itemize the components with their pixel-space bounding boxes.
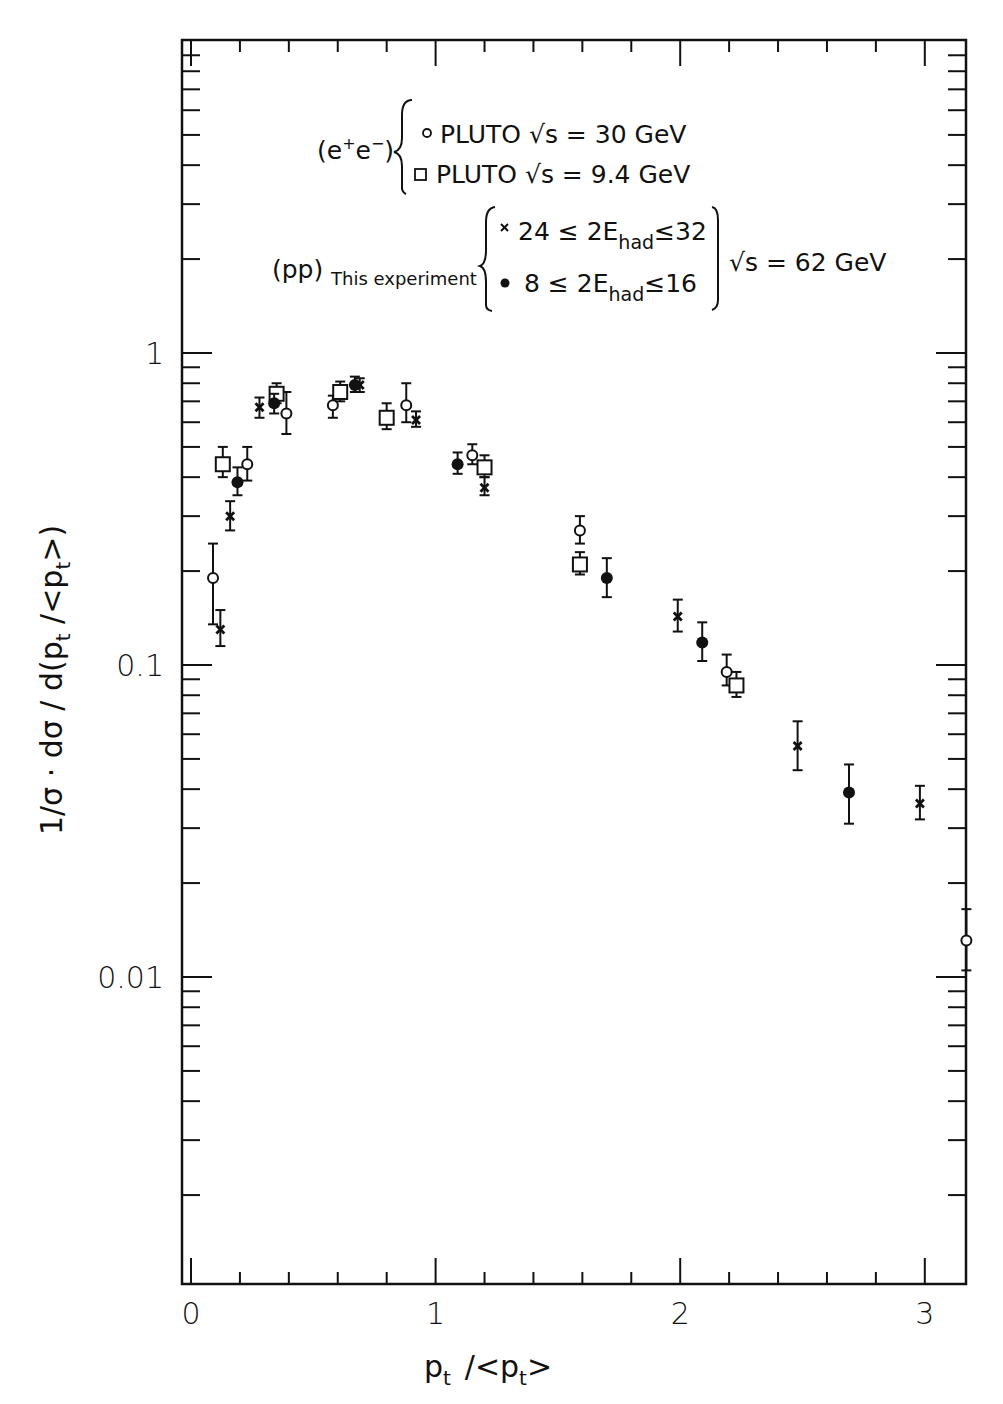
- data-point: [216, 447, 230, 477]
- data-point: [242, 447, 252, 481]
- data-point: [380, 403, 394, 429]
- data-point: [601, 558, 613, 597]
- data-point: [478, 455, 492, 477]
- open-square-marker-icon: [216, 457, 230, 471]
- series-filled-circle: [231, 377, 855, 824]
- chart-canvas: 01230.010.11 pt/<pt> 1/σ · dσ / d(pt /<p…: [0, 0, 1003, 1404]
- data-point: [573, 552, 587, 574]
- data-point: [729, 672, 743, 697]
- x-axis-title: pt/<pt>: [424, 1349, 552, 1390]
- data-point: [208, 544, 218, 625]
- filled-circle-marker-icon: [231, 476, 243, 488]
- open-circle-marker-icon: [281, 408, 291, 418]
- y-tick-label: 0.01: [97, 960, 164, 995]
- axis-tick-labels: 01230.010.11: [97, 336, 934, 1331]
- filled-circle-marker-icon: [452, 458, 464, 470]
- open-circle-marker-icon: [242, 459, 252, 469]
- data-points: [208, 377, 971, 971]
- open-circle-marker-icon: [961, 935, 971, 945]
- data-point: [793, 721, 803, 770]
- filled-circle-marker-icon: [268, 397, 280, 409]
- legend-entry-pluto-30: PLUTO √s = 30 GeV: [440, 120, 686, 149]
- data-point: [480, 477, 490, 495]
- legend-brace-pp-right: [712, 207, 718, 310]
- data-point: [333, 382, 347, 402]
- legend-pp-energy-note: √s = 62 GeV: [729, 248, 886, 277]
- open-square-marker-icon: [573, 557, 587, 571]
- x-tick-label: 1: [426, 1296, 445, 1331]
- legend-group-pp-sublabel: This experiment: [330, 268, 477, 289]
- open-circle-marker-icon: [722, 667, 732, 677]
- open-square-marker-icon: [478, 460, 492, 474]
- y-tick-label: 0.1: [116, 648, 164, 683]
- data-point: [843, 764, 855, 823]
- x-tick-label: 2: [671, 1296, 690, 1331]
- legend: (e+e−) PLUTO √s = 30 GeV PLUTO √s = 9.4 …: [272, 100, 886, 311]
- filled-circle-marker-icon: [696, 637, 708, 649]
- legend-entry-pluto-9-4: PLUTO √s = 9.4 GeV: [436, 160, 690, 189]
- x-tick-label: 0: [181, 1296, 200, 1331]
- x-tick-label: 3: [915, 1296, 934, 1331]
- data-point: [411, 411, 421, 426]
- series-cross: [215, 378, 925, 819]
- legend-brace-pp-left: [480, 207, 495, 311]
- legend-marker-open-square: [415, 169, 426, 180]
- series-open-circle: [208, 383, 971, 970]
- data-point: [961, 909, 971, 970]
- series-open-square: [216, 382, 744, 697]
- open-square-marker-icon: [729, 678, 743, 692]
- filled-circle-marker-icon: [843, 787, 855, 799]
- data-point: [225, 501, 235, 530]
- open-circle-marker-icon: [575, 525, 585, 535]
- legend-marker-open-circle: [423, 129, 431, 137]
- y-axis-title: 1/σ · dσ / d(pt /<pt>): [34, 525, 75, 835]
- legend-marker-cross: [501, 224, 508, 231]
- data-point: [915, 786, 925, 820]
- legend-group-ee-label: (e+e−): [317, 134, 394, 165]
- data-point: [673, 600, 683, 632]
- y-tick-label: 1: [145, 336, 164, 371]
- data-point: [452, 452, 464, 473]
- data-point: [401, 383, 411, 422]
- data-point: [467, 444, 477, 464]
- filled-circle-marker-icon: [349, 379, 361, 391]
- legend-group-pp-label: (pp): [272, 255, 323, 284]
- legend-entry-high-e: 24 ≤ 2Ehad≤32: [518, 217, 707, 253]
- open-square-marker-icon: [380, 411, 394, 425]
- data-point: [254, 398, 264, 418]
- open-circle-marker-icon: [401, 400, 411, 410]
- legend-marker-filled-circle: [501, 279, 510, 288]
- data-point: [215, 610, 225, 646]
- data-point: [575, 516, 585, 543]
- data-point: [231, 467, 243, 495]
- open-square-marker-icon: [333, 385, 347, 399]
- filled-circle-marker-icon: [601, 572, 613, 584]
- legend-entry-low-e: 8 ≤ 2Ehad≤16: [524, 269, 697, 305]
- data-point: [696, 622, 708, 661]
- open-circle-marker-icon: [467, 450, 477, 460]
- open-circle-marker-icon: [208, 573, 218, 583]
- legend-brace-ee: [394, 100, 412, 194]
